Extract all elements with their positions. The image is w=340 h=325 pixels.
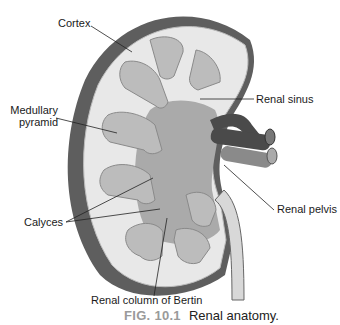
- label-renal-pelvis: Renal pelvis: [277, 203, 337, 215]
- figure-title: Renal anatomy.: [189, 308, 279, 323]
- label-renal-column: Renal column of Bertin: [91, 294, 202, 306]
- figure-caption: FIG. 10.1Renal anatomy.: [124, 308, 279, 323]
- figure-number: FIG. 10.1: [124, 308, 181, 323]
- label-medullary-line1: Medullary: [10, 104, 58, 116]
- label-medullary-pyramid: Medullary pyramid: [2, 104, 58, 128]
- kidney-illustration: [0, 0, 340, 325]
- label-calyces: Calyces: [24, 216, 63, 228]
- label-renal-sinus: Renal sinus: [256, 93, 313, 105]
- label-cortex: Cortex: [58, 17, 90, 29]
- label-medullary-line2: pyramid: [19, 116, 58, 128]
